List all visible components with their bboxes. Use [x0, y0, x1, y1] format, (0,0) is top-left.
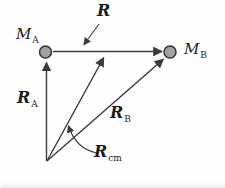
mass-a-label: MA: [16, 26, 39, 45]
vector-rb-subscript: B: [124, 114, 131, 124]
vector-rb-label: RB: [110, 105, 131, 124]
vector-ra-subscript: A: [31, 99, 38, 109]
mass-b-symbol: M: [184, 40, 199, 58]
mass-a-subscript: A: [32, 35, 39, 45]
mass-a-symbol: M: [16, 25, 31, 43]
mass-b-label: MB: [184, 41, 207, 60]
vector-rb-symbol: R: [110, 103, 123, 122]
vector-rcm-label: Rcm: [94, 144, 122, 163]
vector-ra-label: RA: [17, 90, 38, 109]
vector-rcm-symbol: R: [94, 142, 107, 161]
vector-rcm-subscript: cm: [108, 153, 122, 163]
mass-a-dot: [40, 46, 52, 58]
vector-ra-symbol: R: [17, 88, 30, 107]
mass-b-subscript: B: [200, 50, 207, 60]
r-label-leader: [84, 24, 99, 45]
vector-diagram: MA MB R RA RB Rcm: [0, 0, 225, 188]
vector-r-symbol: R: [97, 1, 110, 20]
vector-r-label: R: [97, 3, 111, 22]
mass-b-dot: [164, 46, 176, 58]
page-scan-artifact: [0, 183, 225, 188]
